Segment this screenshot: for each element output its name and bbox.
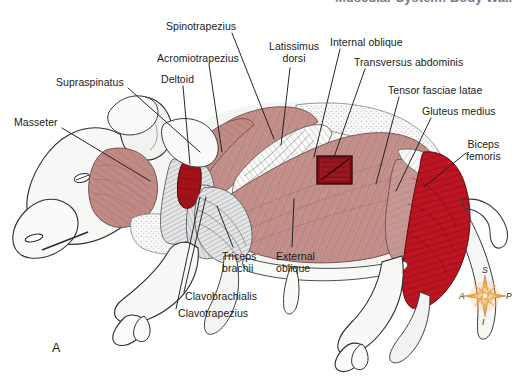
compass-inferior-letter: I [482,317,484,327]
label-clavobrachialis: Clavobrachialis [185,290,257,302]
compass-rose-graphic [464,275,506,317]
abdominal-wall-window [317,156,352,184]
anatomy-figure: Muscular System: Body Wall Masseter Supr… [0,0,531,377]
label-external-oblique: External oblique [276,250,315,275]
compass-anterior-letter: A [459,291,465,301]
label-latissimus-dorsi: Latissimus dorsi [269,40,319,65]
label-gluteus-medius: Gluteus medius [422,105,496,117]
label-internal-oblique: Internal oblique [330,36,403,48]
label-biceps-femoris: Biceps femoris [466,138,501,163]
label-clavotrapezius: Clavotrapezius [178,307,248,319]
panel-letter-a: A [52,341,60,355]
label-deltoid: Deltoid [161,73,194,85]
cropped-page-header: Muscular System: Body Wall [0,0,531,7]
compass-posterior-letter: P [506,291,512,301]
compass-superior-letter: S [482,265,488,275]
label-triceps-brachii: Triceps brachii [222,250,256,275]
label-supraspinatus: Supraspinatus [56,76,124,88]
label-acromiotrapezius: Acromiotrapezius [157,52,239,64]
label-spinotrapezius: Spinotrapezius [166,20,236,32]
label-transversus-abdominis: Transversus abdominis [354,56,463,68]
label-tensor-fasciae-latae: Tensor fasciae latae [388,84,482,96]
label-masseter: Masseter [14,116,58,128]
